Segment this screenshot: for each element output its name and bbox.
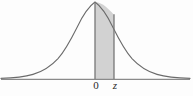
axis-tick-label-zero: 0 [89, 80, 103, 91]
normal-distribution-figure: 0 z [0, 0, 193, 96]
shaded-area-between-zero-and-z [95, 2, 114, 79]
axis-tick-label-z: z [108, 80, 122, 91]
